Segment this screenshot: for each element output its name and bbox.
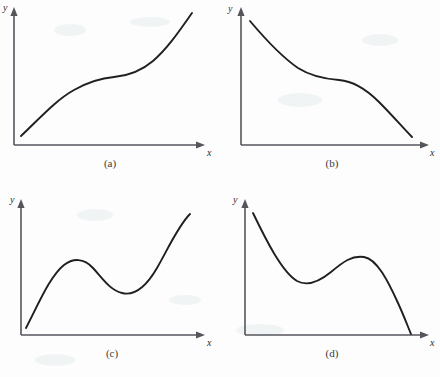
function-graphs-figure: y x (a) y x (b) y x (c) y x (d) (0, 0, 440, 377)
panel-d-caption: (d) (326, 347, 339, 360)
panel-d-y-axis-label: y (232, 194, 238, 205)
panel-b-caption: (b) (326, 157, 339, 170)
panel-a-x-axis-label: x (206, 147, 212, 158)
figure-background (0, 0, 440, 377)
panel-c-x-axis-label: x (206, 337, 212, 348)
panel-d-x-axis-label: x (429, 337, 435, 348)
panel-c-y-axis-label: y (9, 194, 15, 205)
panel-c-caption: (c) (106, 347, 119, 360)
panel-a-y-axis-label: y (2, 2, 8, 13)
panel-a-caption: (a) (104, 157, 117, 170)
panel-b-x-axis-label: x (429, 147, 435, 158)
panel-b-y-axis-label: y (227, 3, 233, 14)
